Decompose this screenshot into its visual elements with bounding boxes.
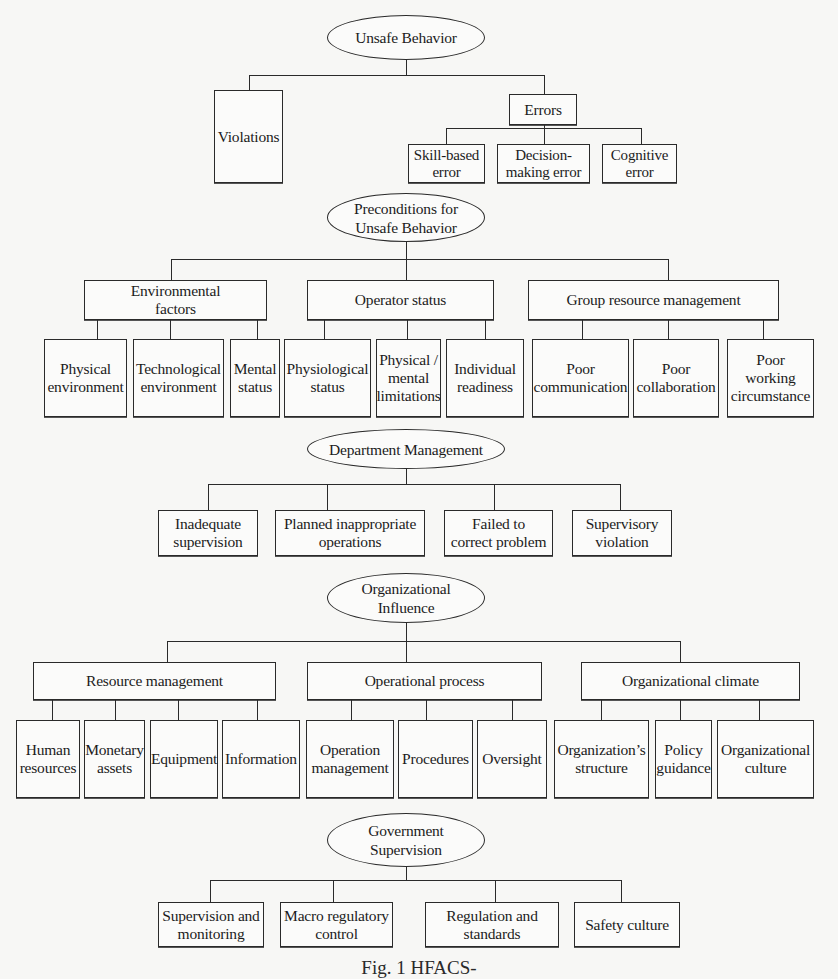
connector <box>171 259 172 280</box>
individual-readiness-node: Individual readiness <box>446 339 524 417</box>
connector <box>406 867 407 880</box>
government-supervision-node: Government Supervision <box>327 813 485 867</box>
regulation-and-standards-node: Regulation and standards <box>425 902 559 947</box>
organizational-climate-node: Organizational climate <box>581 662 800 700</box>
connector <box>406 469 407 484</box>
mental-status-node: Mental status <box>230 339 280 417</box>
organizations-structure-node: Organization’s structure <box>554 720 649 798</box>
connector <box>680 700 681 720</box>
organizational-influence-node: Organizational Influence <box>327 573 485 623</box>
connector <box>170 320 171 339</box>
equipment-node: Equipment <box>150 720 218 798</box>
poor-working-circumstance-node: Poor working circumstance <box>727 339 814 417</box>
connector <box>333 880 334 902</box>
physiological-status-node: Physiological status <box>284 339 371 417</box>
connector <box>167 641 168 662</box>
connector <box>680 641 681 662</box>
connector <box>406 60 407 75</box>
decision-making-error-node: Decision- making error <box>497 144 590 183</box>
connector <box>763 320 764 339</box>
connector <box>407 320 408 339</box>
supervision-and-monitoring-node: Supervision and monitoring <box>158 902 264 947</box>
connector <box>668 320 669 339</box>
connector <box>351 700 352 720</box>
environmental-factors-node: Environmental factors <box>84 280 267 320</box>
connector <box>208 484 620 485</box>
unsafe-behavior-node: Unsafe Behavior <box>327 15 485 60</box>
connector <box>210 880 211 902</box>
poor-communication-node: Poor communication <box>532 339 629 417</box>
human-resources-node: Human resources <box>16 720 80 798</box>
connector <box>52 700 53 720</box>
connector <box>167 641 680 642</box>
errors-node: Errors <box>509 94 577 125</box>
connector <box>446 128 447 144</box>
connector <box>620 484 621 510</box>
organizational-culture-node: Organizational culture <box>717 720 814 798</box>
connector <box>512 700 513 720</box>
connector <box>406 623 407 641</box>
connector <box>257 320 258 339</box>
operation-management-node: Operation management <box>306 720 394 798</box>
monetary-assets-node: Monetary assets <box>84 720 145 798</box>
skill-based-error-node: Skill-based error <box>408 144 485 183</box>
oversight-node: Oversight <box>477 720 547 798</box>
group-resource-management-node: Group resource management <box>528 280 779 320</box>
connector <box>210 880 621 881</box>
connector <box>495 880 496 902</box>
connector <box>668 259 669 280</box>
connector <box>601 700 602 720</box>
preconditions-node: Preconditions for Unsafe Behavior <box>327 193 485 242</box>
information-node: Information <box>222 720 300 798</box>
physical-mental-limitations-node: Physical / mental limitations <box>376 339 441 417</box>
connector <box>208 484 209 510</box>
connector <box>324 320 325 339</box>
connector <box>582 320 583 339</box>
policy-guidance-node: Policy guidance <box>655 720 712 798</box>
connector <box>621 880 622 902</box>
planned-inappropriate-operations-node: Planned inappropriate operations <box>275 510 425 556</box>
connector <box>494 484 495 510</box>
connector <box>641 128 642 144</box>
operational-process-node: Operational process <box>307 662 542 700</box>
connector <box>171 259 668 260</box>
figure-caption: Fig. 1 HFACS- <box>0 957 838 979</box>
supervisory-violation-node: Supervisory violation <box>572 510 672 556</box>
technological-environment-node: Technological environment <box>133 339 224 417</box>
connector <box>327 484 328 510</box>
resource-management-node: Resource management <box>33 662 276 700</box>
operator-status-node: Operator status <box>307 280 494 320</box>
physical-environment-node: Physical environment <box>44 339 127 417</box>
connector <box>178 700 179 720</box>
connector <box>257 700 258 720</box>
connector <box>115 700 116 720</box>
connector <box>406 242 407 259</box>
connector <box>249 75 250 90</box>
failed-to-correct-problem-node: Failed to correct problem <box>444 510 553 556</box>
procedures-node: Procedures <box>398 720 473 798</box>
connector <box>544 128 545 144</box>
connector <box>97 320 98 339</box>
safety-culture-node: Safety culture <box>574 902 680 947</box>
cognitive-error-node: Cognitive error <box>602 144 677 183</box>
connector <box>406 641 407 662</box>
connector <box>485 320 486 339</box>
inadequate-supervision-node: Inadequate supervision <box>158 510 258 556</box>
connector <box>544 75 545 94</box>
department-management-node: Department Management <box>307 429 505 469</box>
connector <box>759 700 760 720</box>
connector <box>426 700 427 720</box>
connector <box>249 75 544 76</box>
poor-collaboration-node: Poor collaboration <box>633 339 719 417</box>
macro-regulatory-control-node: Macro regulatory control <box>280 902 393 947</box>
violations-node: Violations <box>214 90 283 183</box>
connector <box>406 259 407 280</box>
